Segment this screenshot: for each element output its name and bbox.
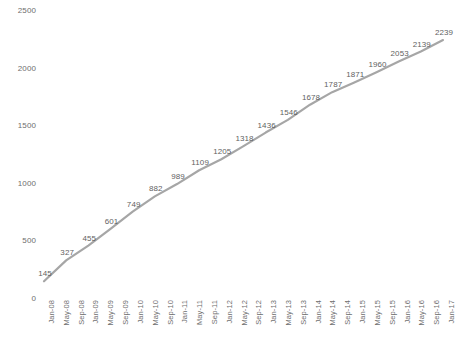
data-point-label: 1318: [235, 134, 253, 143]
x-axis-tick-label: May-15: [373, 300, 382, 326]
data-point-label: 455: [83, 234, 97, 243]
data-point-label: 1436: [258, 121, 276, 130]
y-axis-tick-label: 2500: [18, 6, 36, 15]
x-axis-tick-label: May-12: [240, 300, 249, 326]
x-axis-tick-label: Sep-13: [299, 300, 308, 325]
y-axis-tick-label: 2000: [18, 63, 36, 72]
x-axis-tick-label: May-11: [195, 300, 204, 325]
x-axis: Jan-08May-08Sep-08Jan-09May-09Sep-09Jan-…: [42, 300, 449, 345]
data-point-label: 1678: [302, 93, 320, 102]
line-chart: 05001000150020002500 1453274556017498829…: [0, 0, 457, 345]
y-axis-tick-label: 1500: [18, 121, 36, 130]
x-axis-tick-label: Jan-17: [447, 300, 456, 324]
data-point-label: 1787: [324, 80, 342, 89]
x-axis-tick-label: May-10: [151, 300, 160, 326]
x-axis-tick-label: Jan-11: [180, 300, 189, 323]
data-point-label: 1871: [346, 70, 364, 79]
data-point-label: 1546: [280, 108, 298, 117]
y-axis-tick-label: 1000: [18, 178, 36, 187]
y-axis-tick-label: 500: [22, 236, 36, 245]
x-axis-tick-label: Jan-12: [225, 300, 234, 324]
y-axis: 05001000150020002500: [0, 0, 42, 345]
x-axis-tick-label: May-14: [328, 300, 337, 326]
x-axis-tick-label: Sep-15: [388, 300, 397, 325]
data-point-label: 2239: [435, 28, 453, 37]
data-point-label: 601: [105, 217, 119, 226]
x-axis-tick-label: Sep-14: [343, 300, 352, 325]
x-axis-tick-label: Jan-09: [91, 300, 100, 324]
x-axis-tick-label: Sep-08: [77, 300, 86, 325]
y-axis-tick-label: 0: [31, 294, 36, 303]
x-axis-tick-label: May-16: [417, 300, 426, 326]
x-axis-tick-label: May-13: [284, 300, 293, 326]
data-point-label: 1205: [213, 147, 231, 156]
x-axis-tick-label: Jan-08: [47, 300, 56, 324]
series-svg: [42, 10, 449, 298]
data-point-label: 1109: [191, 158, 209, 167]
data-point-label: 327: [60, 248, 74, 257]
data-series-line: [44, 40, 443, 281]
x-axis-tick-label: Sep-10: [166, 300, 175, 325]
x-axis-tick-label: Jan-15: [358, 300, 367, 324]
data-point-label: 1960: [368, 60, 386, 69]
x-axis-tick-label: May-08: [62, 300, 71, 326]
x-axis-tick-label: Sep-11: [210, 300, 219, 324]
data-point-label: 145: [38, 269, 52, 278]
x-axis-tick-label: Sep-12: [254, 300, 263, 325]
x-axis-tick-label: Jan-13: [269, 300, 278, 324]
data-point-label: 749: [127, 200, 141, 209]
x-axis-tick-label: Jan-16: [403, 300, 412, 324]
x-axis-tick-label: May-09: [106, 300, 115, 326]
x-axis-tick-label: Sep-16: [432, 300, 441, 325]
x-axis-tick-label: Jan-10: [136, 300, 145, 324]
data-point-label: 2053: [391, 49, 409, 58]
x-axis-tick-label: Sep-09: [121, 300, 130, 325]
data-point-label: 2139: [413, 40, 431, 49]
x-axis-tick-label: Jan-14: [314, 300, 323, 324]
data-point-label: 989: [171, 172, 185, 181]
plot-area: 1453274556017498829891109120513181436154…: [42, 10, 449, 298]
data-point-label: 882: [149, 184, 163, 193]
